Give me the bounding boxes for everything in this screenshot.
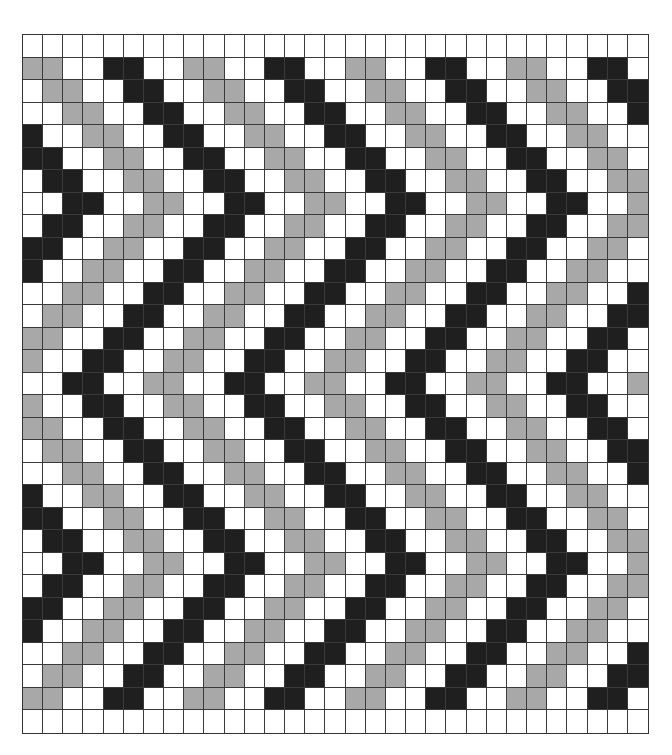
dark-cell — [305, 463, 325, 486]
dark-cell — [164, 260, 184, 283]
white-cell — [567, 598, 587, 621]
dark-cell — [446, 418, 466, 441]
white-cell — [366, 553, 386, 576]
dark-cell — [265, 328, 285, 351]
dark-cell — [184, 148, 204, 171]
white-cell — [386, 125, 406, 148]
white-cell — [547, 58, 567, 81]
dark-cell — [204, 598, 224, 621]
white-cell — [527, 193, 547, 216]
white-cell — [588, 35, 608, 58]
dark-cell — [487, 643, 507, 666]
white-cell — [245, 418, 265, 441]
white-cell — [446, 350, 466, 373]
gray-cell — [446, 238, 466, 261]
dark-cell — [346, 508, 366, 531]
white-cell — [487, 80, 507, 103]
white-cell — [83, 80, 103, 103]
white-cell — [346, 440, 366, 463]
white-cell — [527, 485, 547, 508]
white-cell — [567, 575, 587, 598]
dark-cell — [265, 688, 285, 711]
dark-cell — [104, 395, 124, 418]
white-cell — [588, 665, 608, 688]
dark-cell — [366, 508, 386, 531]
white-cell — [43, 553, 63, 576]
white-cell — [567, 170, 587, 193]
white-cell — [567, 305, 587, 328]
gray-cell — [104, 238, 124, 261]
dark-cell — [446, 328, 466, 351]
gray-cell — [124, 215, 144, 238]
white-cell — [406, 440, 426, 463]
white-cell — [63, 148, 83, 171]
gray-cell — [446, 148, 466, 171]
white-cell — [467, 350, 487, 373]
dark-cell — [507, 598, 527, 621]
dark-cell — [124, 665, 144, 688]
white-cell — [63, 418, 83, 441]
white-cell — [63, 485, 83, 508]
white-cell — [406, 418, 426, 441]
gray-cell — [245, 103, 265, 126]
dark-cell — [608, 58, 628, 81]
white-cell — [547, 238, 567, 261]
gray-cell — [588, 148, 608, 171]
white-cell — [487, 35, 507, 58]
white-cell — [446, 395, 466, 418]
white-cell — [366, 260, 386, 283]
dark-cell — [23, 598, 43, 621]
dark-cell — [527, 530, 547, 553]
gray-cell — [386, 643, 406, 666]
white-cell — [83, 530, 103, 553]
gray-cell — [245, 283, 265, 306]
gray-cell — [144, 193, 164, 216]
white-cell — [426, 440, 446, 463]
dark-cell — [487, 283, 507, 306]
white-cell — [507, 440, 527, 463]
gray-cell — [245, 620, 265, 643]
dark-cell — [325, 463, 345, 486]
dark-cell — [285, 665, 305, 688]
gray-cell — [547, 80, 567, 103]
white-cell — [285, 553, 305, 576]
white-cell — [386, 418, 406, 441]
dark-cell — [346, 238, 366, 261]
white-cell — [527, 463, 547, 486]
white-cell — [104, 35, 124, 58]
dark-cell — [346, 620, 366, 643]
white-cell — [346, 665, 366, 688]
dark-cell — [124, 688, 144, 711]
dark-cell — [567, 395, 587, 418]
white-cell — [265, 553, 285, 576]
gray-cell — [346, 418, 366, 441]
gray-cell — [305, 170, 325, 193]
dark-cell — [507, 125, 527, 148]
white-cell — [426, 553, 446, 576]
white-cell — [406, 688, 426, 711]
dark-cell — [225, 193, 245, 216]
white-cell — [23, 643, 43, 666]
white-cell — [567, 148, 587, 171]
dark-cell — [467, 643, 487, 666]
white-cell — [567, 238, 587, 261]
gray-cell — [43, 418, 63, 441]
white-cell — [63, 350, 83, 373]
white-cell — [487, 305, 507, 328]
gray-cell — [225, 643, 245, 666]
gray-cell — [406, 283, 426, 306]
dark-cell — [608, 665, 628, 688]
white-cell — [325, 215, 345, 238]
white-cell — [446, 710, 466, 733]
white-cell — [467, 238, 487, 261]
white-cell — [346, 463, 366, 486]
dark-cell — [325, 260, 345, 283]
dark-cell — [527, 170, 547, 193]
dark-cell — [144, 283, 164, 306]
white-cell — [346, 530, 366, 553]
gray-cell — [567, 485, 587, 508]
dark-cell — [467, 463, 487, 486]
dark-cell — [608, 418, 628, 441]
gray-cell — [104, 598, 124, 621]
gray-cell — [366, 688, 386, 711]
